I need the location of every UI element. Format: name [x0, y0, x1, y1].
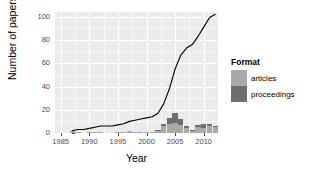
legend-swatch-articles: [231, 70, 247, 86]
y-tick-label: 20: [24, 106, 50, 114]
x-axis-title: Year: [55, 152, 218, 164]
chart-figure: Number of papers 020406080100 1985199019…: [0, 0, 313, 170]
legend-item-articles[interactable]: articles: [231, 70, 311, 86]
legend: Format articles proceedings: [231, 57, 311, 102]
y-tick-mark: [72, 133, 75, 134]
x-tick-mark: [118, 133, 119, 136]
x-tick-mark: [175, 133, 176, 136]
y-axis-title: Number of papers: [6, 0, 18, 98]
y-tick-label: 60: [24, 59, 50, 67]
y-tick-label: 0: [24, 129, 50, 137]
legend-title: Format: [231, 57, 311, 67]
legend-item-proceedings[interactable]: proceedings: [231, 86, 311, 102]
x-tick-mark: [61, 133, 62, 136]
legend-swatch-proceedings: [231, 86, 247, 102]
y-tick-label: 80: [24, 36, 50, 44]
plot-panel: [55, 12, 218, 133]
x-tick-mark: [204, 133, 205, 136]
x-tick-mark: [89, 133, 90, 136]
cumulative-line-series: [55, 12, 218, 133]
legend-label-articles: articles: [251, 74, 276, 83]
x-tick-mark: [147, 133, 148, 136]
y-tick-label: 100: [24, 13, 50, 21]
x-tick-label: 2010: [187, 137, 221, 146]
y-tick-label: 40: [24, 83, 50, 91]
legend-label-proceedings: proceedings: [251, 90, 295, 99]
cumulative-line-path: [72, 14, 215, 130]
